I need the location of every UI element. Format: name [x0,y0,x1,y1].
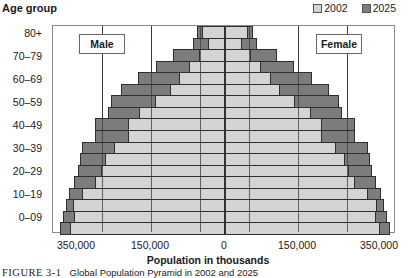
legend: 2002 2025 [313,2,396,14]
y-axis-label: 50–59 [13,96,42,108]
gridline-overlay [225,26,226,232]
bar-male-2002 [70,222,225,235]
caption-text: Global Population Pyramid in 2002 and 20… [70,267,259,278]
x-axis-tick-label: 0 [221,239,227,251]
legend-swatch-2025 [362,4,371,13]
gridline-overlay [298,26,299,232]
y-axis-label: 10–19 [13,188,42,200]
gridline-overlay [102,26,103,232]
plot-area: MaleFemale [52,25,395,233]
y-axis-label: 40–49 [13,119,42,131]
y-axis-label: 80+ [24,27,42,39]
legend-label: 2002 [324,2,347,14]
y-axis-label: 30–39 [13,142,42,154]
y-axis-label: 20–29 [13,165,42,177]
y-axis-title: Age group [2,2,57,14]
gridline-overlay [151,26,152,232]
gridline-overlay [200,26,201,232]
y-axis-label: 70–79 [13,50,42,62]
figure-caption: FIGURE 3-1Global Population Pyramid in 2… [2,267,258,278]
female-panel-label: Female [316,34,362,54]
x-axis-title: Population in thousands [0,254,416,266]
y-axis-label: 0–09 [19,211,42,223]
gridline-overlay [249,26,250,232]
x-axis-tick-label: 150,000 [131,239,169,251]
x-axis-tick-label: 350,000 [57,239,95,251]
y-axis-label: 60–69 [13,73,42,85]
legend-item-2025: 2025 [362,2,396,14]
x-axis-tick-label: 150,000 [278,239,316,251]
legend-label: 2025 [373,2,396,14]
legend-item-2002: 2002 [313,2,347,14]
legend-swatch-2002 [313,4,322,13]
caption-label: FIGURE 3-1 [2,267,62,278]
x-axis-tick-label: 350,000 [360,239,398,251]
gridline-overlay [347,26,348,232]
male-panel-label: Male [79,34,125,54]
